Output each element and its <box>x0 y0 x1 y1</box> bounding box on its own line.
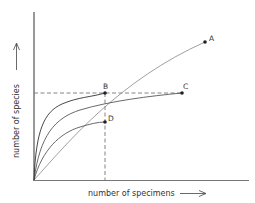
point-c <box>180 91 184 95</box>
rarefaction-diagram: A B C D number of specimens number of sp… <box>0 0 255 203</box>
point-a <box>203 40 207 44</box>
curve-c <box>34 93 182 180</box>
x-axis-label: number of specimens <box>88 189 175 198</box>
y-axis-label: number of species <box>12 84 21 158</box>
x-axis-arrow-icon <box>180 191 206 197</box>
curve-d <box>34 122 105 180</box>
label-c: C <box>183 82 188 91</box>
curve-a <box>34 42 205 180</box>
label-a: A <box>209 34 215 43</box>
y-axis-arrow-icon <box>14 43 20 70</box>
label-d: D <box>108 114 114 123</box>
point-d <box>103 120 107 124</box>
point-b <box>103 91 107 95</box>
label-b: B <box>103 82 108 91</box>
